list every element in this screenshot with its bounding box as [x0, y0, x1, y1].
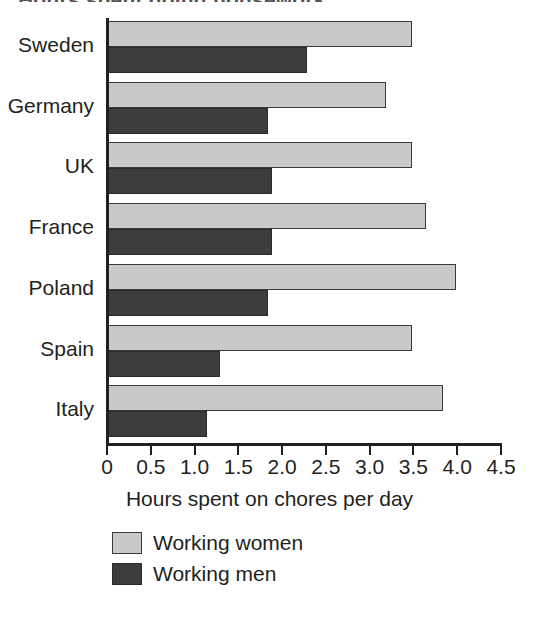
bar-group: [106, 142, 500, 194]
chart-legend: Working womenWorking men: [112, 527, 303, 589]
bar-working-men: [106, 168, 272, 194]
category-label: Germany: [8, 94, 94, 118]
y-axis-line: [106, 18, 109, 444]
bar-working-men: [106, 108, 268, 134]
bar-group: [106, 203, 500, 255]
bar-group: [106, 21, 500, 73]
x-tick: [150, 446, 152, 455]
category-label: Spain: [40, 337, 94, 361]
category-label: France: [29, 215, 94, 239]
x-tick-label: 4.5: [486, 455, 515, 479]
x-tick: [325, 446, 327, 455]
bar-working-women: [106, 325, 412, 351]
bar-working-women: [106, 21, 412, 47]
x-tick-label: 1.5: [224, 455, 253, 479]
legend-item: Working women: [112, 527, 303, 558]
plot-area: [106, 18, 500, 443]
bar-working-men: [106, 290, 268, 316]
bar-group: [106, 264, 500, 316]
legend-swatch-men: [112, 563, 142, 585]
bar-group: [106, 82, 500, 134]
bar-group: [106, 325, 500, 377]
bar-working-women: [106, 264, 456, 290]
x-tick: [369, 446, 371, 455]
bar-group: [106, 385, 500, 437]
x-tick-label: 0: [101, 455, 113, 479]
x-tick: [194, 446, 196, 455]
category-label: Italy: [55, 397, 94, 421]
category-label: Sweden: [18, 33, 94, 57]
chart-title-remnant: Hours spent doing housework: [18, 0, 518, 2]
x-tick: [106, 446, 108, 455]
legend-swatch-women: [112, 532, 142, 554]
x-tick-label: 2.5: [311, 455, 340, 479]
x-tick-label: 0.5: [136, 455, 165, 479]
legend-label: Working women: [153, 531, 303, 555]
category-label: UK: [65, 154, 94, 178]
x-tick-label: 4.0: [443, 455, 472, 479]
x-tick: [412, 446, 414, 455]
x-axis-title: Hours spent on chores per day: [0, 487, 539, 511]
x-tick: [500, 446, 502, 455]
bar-working-women: [106, 385, 443, 411]
chart-figure: Hours spent doing housework SwedenGerman…: [0, 0, 539, 618]
bar-working-men: [106, 47, 307, 73]
legend-item: Working men: [112, 558, 303, 589]
x-tick: [456, 446, 458, 455]
bar-working-men: [106, 229, 272, 255]
x-tick-label: 3.5: [399, 455, 428, 479]
category-label: Poland: [29, 276, 94, 300]
x-tick-label: 3.0: [355, 455, 384, 479]
x-axis-line: [106, 443, 502, 446]
bar-working-women: [106, 82, 386, 108]
x-tick: [237, 446, 239, 455]
bar-working-men: [106, 411, 207, 437]
x-tick-label: 1.0: [180, 455, 209, 479]
legend-label: Working men: [153, 562, 276, 586]
category-axis-labels: SwedenGermanyUKFrancePolandSpainItaly: [0, 18, 98, 443]
bar-working-women: [106, 142, 412, 168]
bar-working-men: [106, 351, 220, 377]
x-tick-label: 2.0: [268, 455, 297, 479]
bar-working-women: [106, 203, 426, 229]
x-tick: [281, 446, 283, 455]
